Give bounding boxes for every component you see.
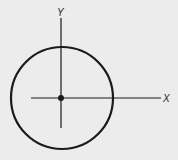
x-axis-label: X [162,93,170,104]
circle-axes-diagram: Y X [0,0,178,160]
center-point [58,95,64,101]
y-axis-label: Y [57,7,65,18]
